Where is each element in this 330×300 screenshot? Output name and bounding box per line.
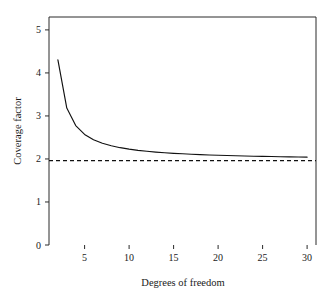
chart-figure: 012345 51015202530 Degrees of freedom Co…	[0, 0, 330, 300]
y-tick-label: 0	[36, 240, 41, 251]
chart-svg: 012345 51015202530 Degrees of freedom Co…	[0, 0, 330, 300]
y-tick-label: 5	[36, 24, 41, 35]
plot-area	[49, 60, 316, 161]
y-axis-ticks: 012345	[36, 24, 49, 250]
y-tick-label: 2	[36, 153, 41, 164]
x-tick-label: 10	[124, 252, 134, 263]
x-tick-label: 30	[302, 252, 312, 263]
plot-frame	[49, 17, 316, 245]
x-axis-ticks: 51015202530	[82, 245, 312, 263]
x-axis-title: Degrees of freedom	[141, 277, 224, 288]
axes-frame	[49, 17, 316, 245]
x-tick-label: 25	[258, 252, 268, 263]
y-tick-label: 4	[36, 67, 41, 78]
x-tick-label: 15	[169, 252, 179, 263]
y-axis-title: Coverage factor	[12, 97, 23, 165]
coverage-factor-curve	[58, 60, 307, 157]
x-tick-label: 20	[213, 252, 223, 263]
y-tick-label: 1	[36, 196, 41, 207]
y-tick-label: 3	[36, 110, 41, 121]
x-tick-label: 5	[82, 252, 87, 263]
